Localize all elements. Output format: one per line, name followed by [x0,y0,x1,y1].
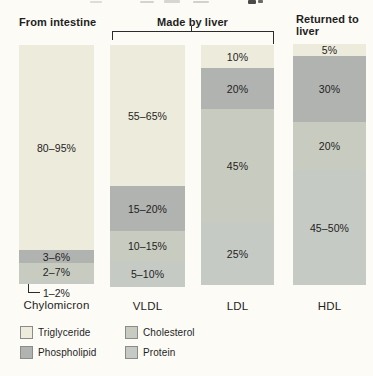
segment-hdl-phospholipid: 30% [293,56,366,122]
chart-area: 80–95%3–6%2–7%Chylomicron55–65%15–20%10–… [0,0,373,376]
legend: TriglyceridePhospholipidCholesterolProte… [20,325,195,359]
protein-callout-label: 1–2% [43,287,70,299]
legend-item-triglyceride: Triglyceride [20,325,125,339]
segment-value-label: 10–15% [128,241,167,251]
triglyceride-swatch [20,326,33,339]
segment-ldl-phospholipid: 20% [201,68,274,109]
segment-value-label: 30% [319,84,340,94]
segment-value-label: 5% [322,45,337,55]
segment-ldl-triglyceride: 10% [201,45,274,68]
category-label-ldl: LDL [201,300,274,312]
segment-hdl-protein: 45–50% [293,170,366,285]
legend-item-phospholipid: Phospholipid [20,345,125,359]
segment-value-label: 3–6% [43,252,70,262]
segment-vldl-phospholipid: 15–20% [110,186,185,231]
segment-vldl-triglyceride: 55–65% [110,45,185,186]
segment-ldl-cholesterol: 45% [201,109,274,222]
segment-value-label: 15–20% [128,204,167,214]
segment-chylomicron-cholesterol: 2–7% [19,263,94,281]
legend-label-protein: Protein [143,347,175,358]
segment-ldl-protein: 25% [201,222,274,285]
segment-value-label: 55–65% [128,111,167,121]
phospholipid-swatch [20,346,33,359]
legend-label-triglyceride: Triglyceride [38,327,91,338]
segment-value-label: 20% [319,141,340,151]
segment-value-label: 45–50% [310,223,349,233]
segment-value-label: 5–10% [131,269,164,279]
legend-label-cholesterol: Cholesterol [143,327,195,338]
segment-hdl-cholesterol: 20% [293,122,366,170]
segment-value-label: 25% [227,249,248,259]
protein-swatch [125,346,138,359]
bar-chylomicron: 80–95%3–6%2–7% [19,45,94,284]
lipoprotein-composition-figure: From intestine Made by liver Returned to… [0,0,373,376]
cholesterol-swatch [125,326,138,339]
segment-hdl-triglyceride: 5% [293,44,366,56]
segment-value-label: 2–7% [43,267,70,277]
legend-item-protein: Protein [125,345,195,359]
segment-vldl-protein: 5–10% [110,261,185,287]
segment-value-label: 10% [227,52,248,62]
bar-ldl: 10%20%45%25% [201,45,274,285]
category-label-vldl: VLDL [110,300,185,312]
category-label-chylomicron: Chylomicron [19,299,94,311]
segment-chylomicron-phospholipid: 3–6% [19,250,94,263]
protein-callout-line [28,284,40,293]
bar-vldl: 55–65%15–20%10–15%5–10% [110,45,185,287]
legend-label-phospholipid: Phospholipid [38,347,96,358]
legend-item-cholesterol: Cholesterol [125,325,195,339]
segment-chylomicron-triglyceride: 80–95% [19,45,94,250]
segment-value-label: 20% [227,84,248,94]
segment-value-label: 80–95% [37,143,76,153]
category-label-hdl: HDL [293,300,366,312]
bar-hdl: 5%30%20%45–50% [293,44,366,285]
segment-value-label: 45% [227,161,248,171]
segment-vldl-cholesterol: 10–15% [110,231,185,261]
